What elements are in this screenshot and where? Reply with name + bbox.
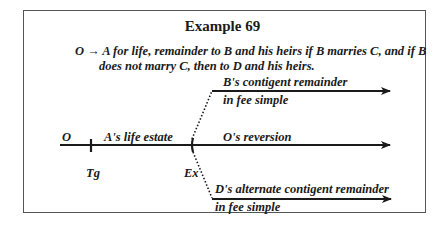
segment-label: A's life estate (104, 130, 173, 145)
lower-branch-label-2: in fee simple (215, 200, 280, 215)
upper-dotted-connector (192, 91, 212, 139)
main-branch-label: O's reversion (223, 130, 291, 145)
tick-tg-label: Tg (86, 166, 100, 181)
upper-branch-label-1: B's contigent remainder (223, 75, 347, 90)
tick-ex-label: Ex (184, 166, 199, 181)
ex-tick (192, 138, 193, 152)
lower-branch-label-1: D's alternate contigent remainder (215, 182, 389, 197)
start-label: O (62, 130, 71, 145)
upper-branch-label-2: in fee simple (223, 93, 288, 108)
